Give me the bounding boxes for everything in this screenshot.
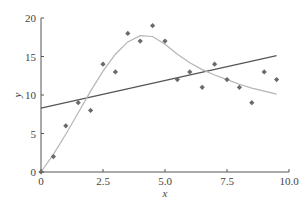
y-tick-label: 0 bbox=[31, 166, 37, 178]
data-point bbox=[125, 31, 130, 36]
y-tick-label: 5 bbox=[31, 128, 37, 140]
x-axis-label: x bbox=[162, 187, 168, 199]
data-point bbox=[88, 108, 93, 113]
data-point bbox=[51, 154, 56, 159]
data-point bbox=[100, 62, 105, 67]
data-point bbox=[63, 123, 68, 128]
data-point bbox=[138, 39, 143, 44]
linear-fit-line bbox=[41, 56, 277, 108]
data-point bbox=[249, 100, 254, 105]
y-tick-label: 20 bbox=[25, 12, 37, 24]
x-tick-label: 5.0 bbox=[158, 175, 172, 187]
x-tick-label: 0 bbox=[38, 175, 44, 187]
y-axis-label: y bbox=[11, 92, 23, 98]
data-point bbox=[262, 69, 267, 74]
x-tick-label: 10.0 bbox=[279, 175, 299, 187]
data-point bbox=[274, 77, 279, 82]
nonlinear-fit-curve bbox=[41, 36, 277, 172]
data-point bbox=[113, 69, 118, 74]
data-point bbox=[237, 85, 242, 90]
data-point bbox=[224, 77, 229, 82]
y-tick-label: 15 bbox=[25, 51, 37, 63]
chart: 02.55.07.510.005101520 x y bbox=[0, 0, 305, 206]
data-point bbox=[150, 23, 155, 28]
plot-area: 02.55.07.510.005101520 bbox=[25, 12, 299, 187]
x-tick-label: 7.5 bbox=[220, 175, 234, 187]
x-tick-label: 2.5 bbox=[96, 175, 110, 187]
series-layer bbox=[38, 23, 279, 175]
data-point bbox=[212, 62, 217, 67]
data-point bbox=[200, 85, 205, 90]
y-tick-label: 10 bbox=[25, 89, 37, 101]
data-point bbox=[187, 69, 192, 74]
